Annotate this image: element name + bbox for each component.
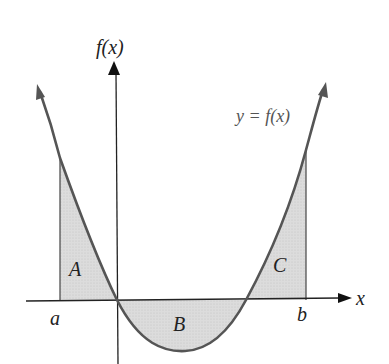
x-axis-arrow-icon	[338, 293, 352, 303]
area-diagram: f(x) x y = f(x) a b A B C	[0, 0, 389, 364]
curve-left-arrow-icon	[36, 84, 45, 100]
region-a-label: A	[67, 258, 82, 280]
y-axis-label: f(x)	[96, 36, 124, 59]
x-axis-label: x	[355, 287, 365, 309]
y-axis-arrow-icon	[108, 61, 120, 75]
endpoint-b-label: b	[297, 303, 307, 325]
endpoint-a-label: a	[50, 307, 60, 329]
curve-right-arrow-icon	[318, 82, 328, 98]
region-c-fill	[246, 150, 306, 300]
y-axis	[116, 72, 118, 364]
region-b-label: B	[173, 313, 185, 335]
curve-label: y = f(x)	[234, 106, 290, 127]
region-c-label: C	[273, 254, 287, 276]
